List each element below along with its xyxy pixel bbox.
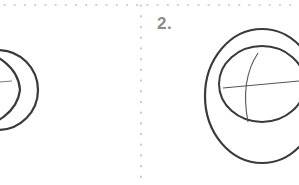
panel-1-figure bbox=[0, 50, 38, 130]
panel-2-figure bbox=[205, 29, 299, 163]
panel-1-horizontal-line bbox=[0, 81, 12, 82]
vertical-curve-line bbox=[246, 53, 258, 122]
panel-2-label: 2. bbox=[157, 14, 172, 34]
horizontal-line bbox=[223, 81, 299, 88]
diagram-canvas bbox=[0, 0, 299, 185]
inner-circle bbox=[219, 46, 299, 122]
outer-circle bbox=[205, 29, 299, 163]
